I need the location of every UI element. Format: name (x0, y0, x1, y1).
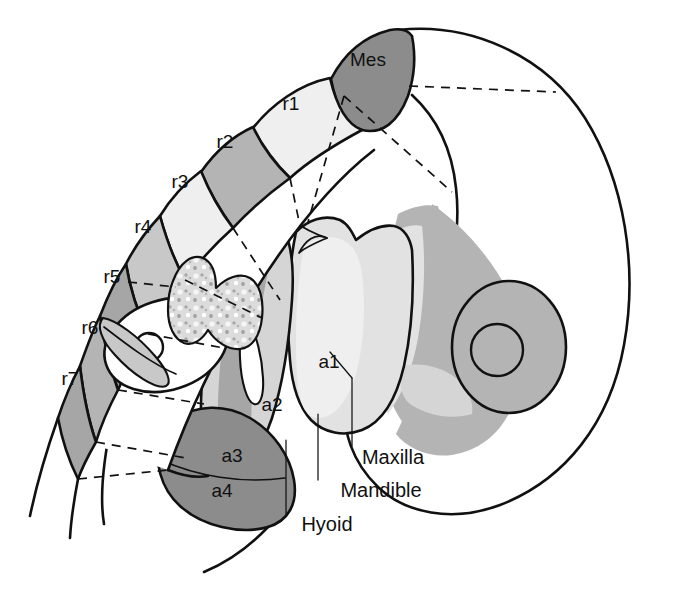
label-mandible: Mandible (340, 479, 421, 501)
label-a1: a1 (318, 351, 339, 372)
label-maxilla: Maxilla (362, 446, 425, 468)
label-r5: r5 (104, 266, 121, 287)
label-hyoid: Hyoid (301, 513, 352, 535)
embryo-neural-crest-figure: Mes r1 r2 r3 r4 r5 r6 r7 a1 a2 a3 a4 Max… (0, 0, 693, 590)
label-a2: a2 (261, 394, 282, 415)
label-a3: a3 (221, 445, 242, 466)
label-r1: r1 (283, 93, 300, 114)
label-r4: r4 (135, 216, 152, 237)
label-r6: r6 (82, 317, 99, 338)
label-r3: r3 (172, 171, 189, 192)
label-r2: r2 (217, 131, 234, 152)
label-r7: r7 (62, 368, 79, 389)
eye (452, 281, 566, 413)
label-a4: a4 (211, 480, 233, 501)
callout-labels: Maxilla Mandible Hyoid (301, 446, 425, 535)
label-mes: Mes (350, 49, 386, 70)
figure-canvas: Mes r1 r2 r3 r4 r5 r6 r7 a1 a2 a3 a4 Max… (0, 0, 693, 590)
